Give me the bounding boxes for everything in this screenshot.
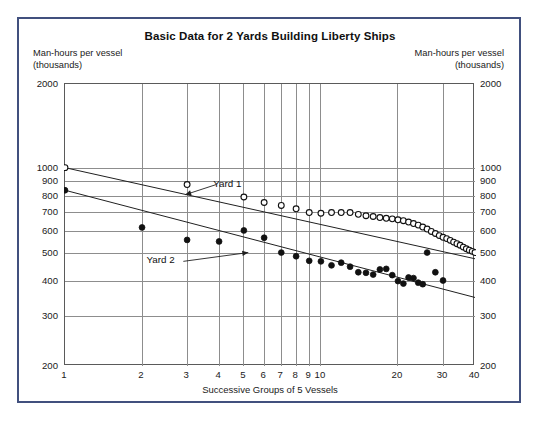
data-point [184, 237, 190, 243]
data-point [64, 165, 68, 171]
x-tick-label: 20 [384, 369, 410, 381]
y-tick-label-left: 800 [12, 190, 58, 201]
data-point [64, 187, 68, 193]
data-point [261, 200, 267, 206]
x-tick-label: 2 [128, 369, 154, 381]
chart-title: Basic Data for 2 Yards Building Liberty … [0, 30, 540, 42]
data-point [338, 260, 344, 266]
data-points [64, 165, 476, 287]
data-point [293, 206, 299, 212]
data-point [472, 250, 476, 256]
series-annotation-2: Yard 2 [147, 254, 175, 265]
y-tick-label-left: 400 [12, 275, 58, 286]
data-point [400, 281, 406, 287]
data-point [338, 210, 344, 216]
y-tick-label-left: 600 [12, 225, 58, 236]
data-point [355, 211, 361, 217]
y-tick-label-right: 2000 [480, 78, 526, 89]
left-axis-caption-line1: Man-hours per vessel [33, 48, 122, 60]
data-point [420, 281, 426, 287]
data-point [370, 272, 376, 278]
data-point [318, 210, 324, 216]
data-point [278, 250, 284, 256]
data-point [389, 216, 395, 222]
data-point [377, 267, 383, 273]
x-tick-label: 3 [173, 369, 199, 381]
y-tick-label-left: 500 [12, 247, 58, 258]
plot-canvas [64, 83, 476, 367]
y-tick-label-right: 800 [480, 190, 526, 201]
annotation-arrowhead [185, 190, 191, 195]
data-point [363, 270, 369, 276]
y-tick-label-right: 900 [480, 175, 526, 186]
data-point [395, 217, 401, 223]
y-tick-label-left: 300 [12, 310, 58, 321]
data-point [329, 210, 335, 216]
x-tick-label: 10 [307, 369, 333, 381]
data-point [306, 258, 312, 264]
y-tick-label-left: 700 [12, 206, 58, 217]
y-tick-label-right: 500 [480, 247, 526, 258]
y-tick-label-right: 600 [480, 225, 526, 236]
left-axis-caption: Man-hours per vessel (thousands) [33, 48, 122, 71]
data-point [355, 269, 361, 275]
data-point [363, 213, 369, 219]
right-axis-caption-line1: Man-hours per vessel [415, 48, 504, 60]
data-point [293, 253, 299, 259]
y-tick-label-left: 900 [12, 175, 58, 186]
data-point [411, 275, 417, 281]
right-axis-caption-line2: (thousands) [415, 60, 504, 72]
data-point [241, 194, 247, 200]
data-point [395, 278, 401, 284]
data-point [424, 250, 430, 256]
x-tick-label: 40 [461, 369, 487, 381]
y-tick-label-right: 700 [480, 206, 526, 217]
data-point [329, 262, 335, 268]
x-axis-title: Successive Groups of 5 Vessels [0, 384, 540, 395]
data-point [306, 210, 312, 216]
data-point [241, 228, 247, 234]
series-annotation-1: Yard 1 [213, 178, 241, 189]
data-point [278, 203, 284, 209]
data-point [318, 258, 324, 264]
data-point [139, 225, 145, 231]
x-tick-label: 4 [205, 369, 231, 381]
y-tick-label-right: 1000 [480, 162, 526, 173]
data-point [347, 210, 353, 216]
figure-root: Basic Data for 2 Yards Building Liberty … [0, 0, 540, 421]
data-point [383, 266, 389, 272]
plot-area [64, 83, 474, 365]
data-point [347, 264, 353, 270]
y-tick-label-left: 2000 [12, 78, 58, 89]
data-point [389, 272, 395, 278]
left-axis-caption-line2: (thousands) [33, 60, 122, 72]
data-point [432, 269, 438, 275]
y-tick-label-right: 300 [480, 310, 526, 321]
right-axis-caption: Man-hours per vessel (thousands) [415, 48, 504, 71]
y-tick-label-right: 400 [480, 275, 526, 286]
data-point [377, 215, 383, 221]
y-tick-label-left: 1000 [12, 162, 58, 173]
x-tick-label: 30 [429, 369, 455, 381]
data-point [184, 182, 190, 188]
data-point [261, 235, 267, 241]
data-point [370, 214, 376, 220]
data-point [440, 278, 446, 284]
data-point [383, 215, 389, 221]
x-tick-label: 1 [51, 369, 77, 381]
data-point [216, 239, 222, 245]
